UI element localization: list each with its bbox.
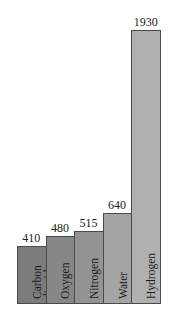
bar-category-label: Water: [117, 272, 128, 299]
bar-carbon-dioxide: Carbondioxide: [17, 246, 47, 304]
bar-hydrogen: Hydrogen: [131, 30, 161, 304]
bar-oxygen: Oxygen: [46, 236, 76, 304]
bar-nitrogen: Nitrogen: [74, 231, 104, 304]
bar-value-label: 640: [102, 198, 132, 213]
bar-value-label: 480: [45, 221, 75, 236]
bar-water: Water: [103, 213, 133, 304]
bar-category-label: Hydrogen: [146, 253, 157, 299]
bar-chart: Carbondioxide410Oxygen480Nitrogen515Wate…: [0, 0, 169, 318]
bar-value-label: 515: [74, 216, 104, 231]
bar-value-label: 410: [16, 231, 46, 246]
bar-category-label: Nitrogen: [88, 258, 99, 299]
bar-category-label: Oxygen: [60, 263, 71, 299]
bar-value-label: 1930: [131, 15, 161, 30]
